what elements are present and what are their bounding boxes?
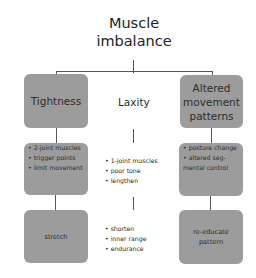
diagram-title: Muscle imbalance [60, 14, 208, 50]
reeducate-box: re-educate pattern [179, 210, 243, 264]
connector-right-row1 [211, 128, 212, 143]
list-item: 1-joint muscles [105, 156, 158, 166]
connector-center-row2 [133, 197, 134, 210]
connector-left-row2 [55, 195, 56, 210]
reeducate-line-2: pattern [199, 237, 223, 247]
altered-line-3: patterns [189, 109, 233, 123]
list-item: limit movement [28, 163, 83, 173]
connector-right-row2 [210, 196, 211, 210]
altered-line-2: movement [183, 95, 240, 109]
tightness-box: Tightness [24, 74, 88, 128]
laxity-characteristics: 1-joint muscles poor tone lengthen [105, 156, 158, 186]
altered-characteristics-box: posture change altered seg- mental contr… [179, 143, 243, 196]
list-item: endurance [105, 244, 147, 254]
laxity-label: Laxity [118, 96, 150, 108]
tightness-label: Tightness [31, 94, 82, 108]
list-item: 2-joint muscles [28, 143, 81, 153]
tightness-characteristics-box: 2-joint muscles trigger points limit mov… [24, 143, 88, 195]
connector-horizontal [56, 71, 213, 72]
list-item: trigger points [28, 153, 76, 163]
list-item-continuation: mental control [183, 163, 228, 173]
list-item: posture change [183, 143, 237, 153]
altered-movement-box: Altered movement patterns [180, 75, 243, 128]
list-item: altered seg- [183, 153, 226, 163]
stretch-label: stretch [44, 232, 67, 242]
connector-center-row1 [133, 129, 134, 143]
stretch-box: stretch [24, 210, 88, 263]
connector-left-row1 [56, 128, 57, 143]
list-item: inner range [105, 234, 147, 244]
list-item: lengthen [105, 176, 158, 186]
list-item: poor tone [105, 166, 158, 176]
title-line-1: Muscle [60, 14, 208, 32]
laxity-treatment: shorten inner range endurance [105, 224, 147, 254]
title-line-2: imbalance [60, 32, 208, 50]
laxity-text: Laxity [118, 96, 150, 108]
altered-line-1: Altered [193, 81, 231, 95]
reeducate-line-1: re-educate [193, 227, 229, 237]
list-item: shorten [105, 224, 147, 234]
